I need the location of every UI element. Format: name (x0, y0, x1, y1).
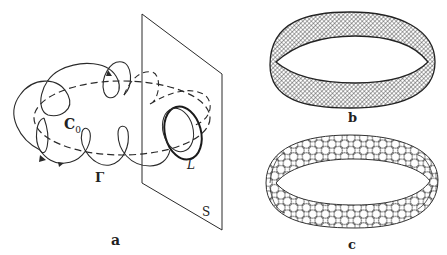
core-curve-letter: C (64, 116, 75, 132)
panel-c: c (230, 125, 447, 255)
panel-a-caption: a (111, 232, 120, 248)
dense-torus-winding (230, 0, 447, 125)
core-curve-subscript: 0 (75, 125, 81, 135)
core-curve-label: C0 (64, 116, 81, 135)
panel-c-caption: c (348, 237, 356, 252)
panel-a: C0 Γ L S a (0, 0, 230, 255)
torus-trajectory-diagram (0, 0, 230, 255)
trajectory-label: Γ (95, 170, 104, 185)
panel-b: b (230, 0, 447, 125)
helical-trajectory (14, 62, 170, 166)
core-curve (34, 81, 210, 155)
panel-b-caption: b (348, 110, 357, 125)
loop-label: L (187, 158, 195, 172)
section-plane-label: S (202, 205, 210, 219)
sparse-torus-winding (230, 125, 447, 255)
